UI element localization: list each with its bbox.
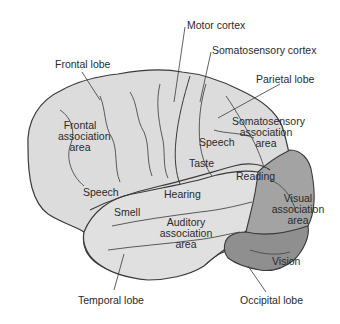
callout-motor-cortex: Motor cortex	[187, 20, 245, 31]
label-smell: Smell	[114, 207, 140, 218]
label-reading: Reading	[236, 171, 275, 182]
label-auditory-association: Auditory association area	[158, 217, 214, 250]
label-taste: Taste	[189, 158, 214, 169]
callout-temporal-lobe: Temporal lobe	[78, 295, 144, 306]
label-speech-frontal: Speech	[83, 187, 119, 198]
label-speech-parietal: Speech	[199, 137, 235, 148]
label-auditory-association-l3: area	[158, 239, 214, 250]
label-visual-association-l3: area	[270, 215, 326, 226]
callout-frontal-lobe: Frontal lobe	[55, 59, 110, 70]
label-somatosensory-association: Somatosensory association area	[232, 116, 300, 149]
callout-parietal-lobe: Parietal lobe	[256, 74, 314, 85]
callout-somatosensory-cortex: Somatosensory cortex	[212, 45, 316, 56]
callout-occipital-lobe: Occipital lobe	[240, 295, 303, 306]
brain-diagram: Frontal lobe Motor cortex Somatosensory …	[0, 0, 340, 324]
label-visual-association: Visual association area	[270, 193, 326, 226]
label-frontal-association-l3: area	[58, 142, 102, 153]
label-frontal-association: Frontal association area	[58, 120, 102, 153]
label-somatosensory-association-l3: area	[232, 138, 300, 149]
label-vision: Vision	[272, 256, 300, 267]
label-hearing: Hearing	[164, 189, 201, 200]
